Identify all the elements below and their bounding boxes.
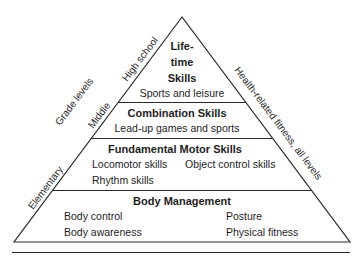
lifetime-title-line-3: Skills: [168, 72, 197, 84]
fundamental-item-object-control: Object control skills: [185, 158, 275, 170]
label-high-school: High school: [120, 35, 160, 83]
body-item-physical-fitness: Physical fitness: [226, 226, 298, 238]
body-item-awareness: Body awareness: [64, 226, 142, 238]
fundamental-item-rhythm: Rhythm skills: [92, 174, 154, 186]
combination-item: Lead-up games and sports: [115, 122, 240, 134]
lifetime-title-line-2: time: [171, 56, 194, 68]
fundamental-title: Fundamental Motor Skills: [108, 143, 242, 155]
label-elementary: Elementary: [26, 164, 65, 211]
fundamental-item-locomotor: Locomotor skills: [92, 158, 167, 170]
skill-pyramid-diagram: Life- time Skills Sports and leisure Com…: [0, 0, 356, 257]
lifetime-title-line-1: Life-: [170, 40, 194, 52]
combination-title: Combination Skills: [127, 107, 226, 119]
body-management-title: Body Management: [133, 195, 231, 207]
body-item-posture: Posture: [226, 210, 262, 222]
body-item-control: Body control: [64, 210, 122, 222]
lifetime-item: Sports and leisure: [140, 87, 225, 99]
